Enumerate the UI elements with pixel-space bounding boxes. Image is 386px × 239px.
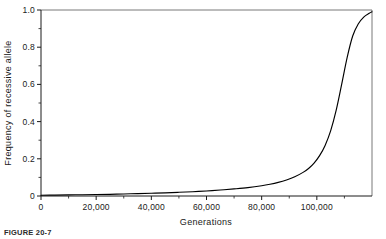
svg-text:0.4: 0.4	[23, 117, 35, 127]
svg-text:0.2: 0.2	[23, 154, 35, 164]
svg-text:0.6: 0.6	[23, 79, 35, 89]
recessive-allele-frequency-curve	[41, 12, 372, 195]
y-axis-tick-labels: 00.20.40.60.81.0	[23, 5, 35, 201]
svg-text:1.0: 1.0	[23, 5, 35, 15]
x-axis-ticks	[41, 196, 344, 200]
figure-page: 020,00040,00060,00080,000100,000 00.20.4…	[0, 0, 386, 239]
y-axis-ticks	[37, 10, 41, 196]
svg-text:40,000: 40,000	[138, 202, 165, 212]
plot-frame	[41, 10, 372, 196]
x-axis-title: Generations	[180, 217, 233, 227]
y-axis-title: Frequency of recessive allele	[3, 40, 13, 165]
figure-caption: FIGURE 20-7	[4, 228, 52, 237]
x-axis-tick-labels: 020,00040,00060,00080,000100,000	[39, 202, 333, 212]
svg-text:0: 0	[30, 191, 35, 201]
svg-text:0: 0	[39, 202, 44, 212]
svg-text:80,000: 80,000	[248, 202, 275, 212]
svg-text:20,000: 20,000	[83, 202, 110, 212]
svg-text:0.8: 0.8	[23, 42, 35, 52]
chart-figure: 020,00040,00060,00080,000100,000 00.20.4…	[0, 0, 386, 239]
svg-text:100,000: 100,000	[301, 202, 333, 212]
frequency-vs-generations-chart: 020,00040,00060,00080,000100,000 00.20.4…	[0, 0, 386, 239]
svg-text:60,000: 60,000	[193, 202, 220, 212]
